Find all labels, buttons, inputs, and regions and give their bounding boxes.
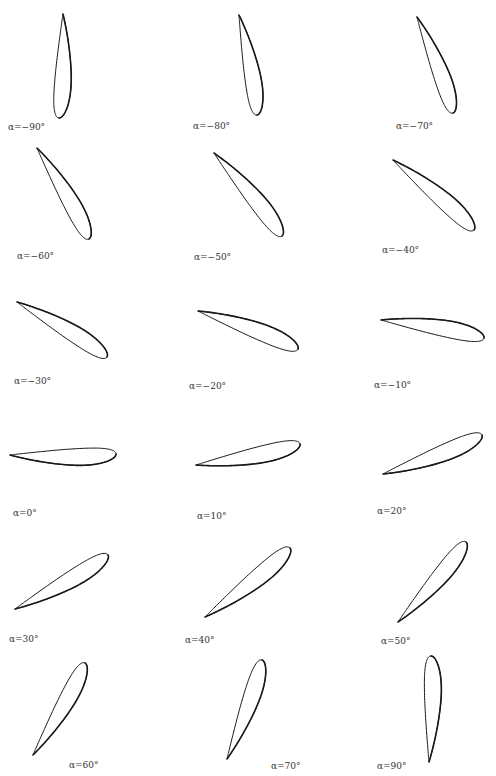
airfoil-upper-surface — [239, 15, 263, 115]
airfoil-panel — [15, 553, 108, 609]
angle-of-attack-label: α=−80° — [193, 121, 230, 131]
angle-of-attack-label: α=10° — [197, 511, 227, 521]
airfoil-upper-surface — [205, 548, 291, 617]
angle-of-attack-label: α=90° — [377, 761, 407, 771]
airfoil-upper-surface — [398, 542, 467, 622]
angle-of-attack-label: α=−60° — [17, 251, 54, 261]
airfoil-upper-surface — [417, 17, 457, 113]
airfoil-outline — [398, 541, 467, 622]
angle-of-attack-label: α=−90° — [8, 122, 45, 132]
airfoil-upper-surface — [10, 454, 116, 465]
airfoil-outline — [383, 433, 482, 474]
airfoil-panel — [37, 148, 91, 239]
airfoil-upper-surface — [15, 555, 108, 609]
airfoil-panel — [17, 302, 107, 359]
airfoil-panel — [196, 441, 300, 466]
airfoil-outline — [381, 318, 484, 341]
airfoil-upper-surface — [429, 656, 441, 762]
airfoil-outline — [198, 311, 298, 351]
airfoil-upper-surface — [17, 302, 107, 357]
angle-of-attack-label: α=40° — [185, 635, 215, 645]
airfoil-outline — [239, 15, 263, 115]
airfoil-panel — [417, 17, 457, 113]
airfoil-outline — [417, 17, 457, 113]
angle-of-attack-label: α=50° — [381, 636, 411, 646]
airfoil-figure — [0, 0, 496, 776]
airfoil-panel — [214, 153, 283, 237]
angle-of-attack-label: α=−70° — [396, 121, 433, 131]
airfoil-panel — [239, 15, 263, 115]
angle-of-attack-label: α=−20° — [189, 381, 226, 391]
airfoil-upper-surface — [381, 318, 484, 338]
airfoil-upper-surface — [196, 444, 300, 466]
angle-of-attack-label: α=0° — [13, 508, 37, 518]
angle-of-attack-label: α=20° — [377, 506, 407, 516]
airfoil-outline — [33, 663, 87, 755]
airfoil-panel — [227, 660, 266, 759]
airfoil-outline — [196, 441, 300, 466]
airfoil-upper-surface — [198, 311, 298, 349]
airfoil-panel — [33, 663, 87, 755]
airfoil-outline — [393, 160, 475, 231]
airfoil-upper-surface — [227, 660, 266, 759]
airfoil-upper-surface — [37, 148, 91, 239]
airfoil-upper-surface — [383, 435, 482, 474]
airfoil-panel — [383, 433, 482, 474]
airfoil-panel — [198, 311, 298, 351]
airfoil-outline — [227, 660, 266, 759]
airfoil-panel — [424, 656, 441, 762]
angle-of-attack-label: α=−30° — [14, 376, 51, 386]
airfoil-outline — [205, 547, 291, 617]
airfoil-panel — [393, 160, 475, 231]
airfoil-upper-surface — [393, 160, 475, 230]
airfoil-upper-surface — [214, 153, 283, 236]
airfoil-panel — [398, 541, 467, 622]
airfoil-panel — [205, 547, 291, 617]
airfoil-outline — [15, 553, 108, 609]
angle-of-attack-label: α=−50° — [194, 252, 231, 262]
angle-of-attack-label: α=−40° — [382, 245, 419, 255]
airfoil-panel — [10, 448, 116, 465]
angle-of-attack-label: α=30° — [9, 634, 39, 644]
angle-of-attack-label: α=70° — [271, 761, 301, 771]
angle-of-attack-label: α=−10° — [374, 380, 411, 390]
airfoil-outline — [17, 302, 107, 359]
airfoil-outline — [37, 148, 91, 239]
airfoil-outline — [214, 153, 283, 237]
airfoil-panel — [54, 14, 72, 118]
airfoil-panel — [381, 318, 484, 341]
angle-of-attack-label: α=60° — [69, 760, 99, 770]
airfoil-upper-surface — [33, 663, 87, 755]
